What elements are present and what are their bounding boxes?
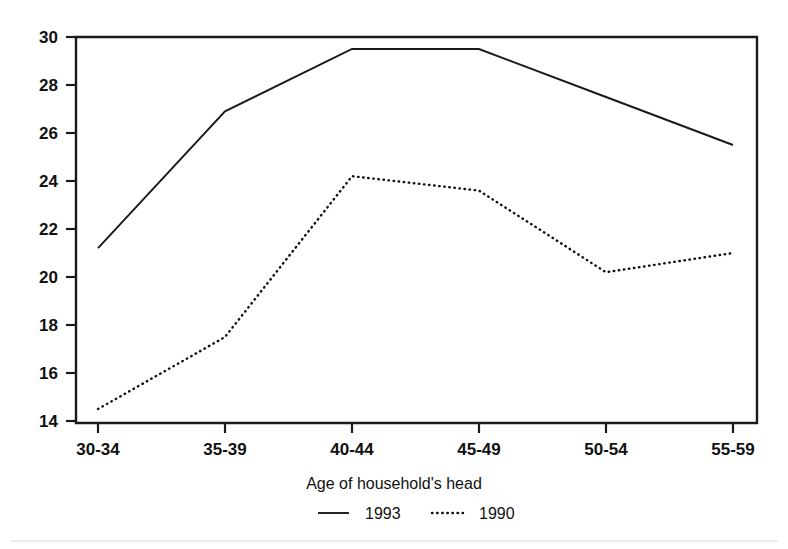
chart-background — [0, 0, 788, 549]
y-tick-label: 26 — [39, 124, 58, 143]
legend-label-1993: 1993 — [365, 505, 401, 522]
y-tick-label: 22 — [39, 220, 58, 239]
x-axis-title: Age of household's head — [306, 475, 482, 492]
chart-figure: 30 28 26 24 22 20 18 16 14 30-34 35-39 4… — [0, 0, 788, 549]
x-tick-label: 30-34 — [76, 440, 120, 459]
line-chart: 30 28 26 24 22 20 18 16 14 30-34 35-39 4… — [0, 0, 788, 549]
y-tick-label: 14 — [39, 412, 58, 431]
legend-label-1990: 1990 — [479, 505, 515, 522]
x-tick-label: 55-59 — [711, 440, 754, 459]
y-tick-label: 16 — [39, 364, 58, 383]
x-tick-label: 40-44 — [330, 440, 374, 459]
y-tick-label: 28 — [39, 76, 58, 95]
y-tick-label: 24 — [39, 172, 58, 191]
x-tick-label: 50-54 — [584, 440, 628, 459]
y-tick-label: 18 — [39, 316, 58, 335]
y-axis-tick-labels: 30 28 26 24 22 20 18 16 14 — [39, 28, 58, 431]
x-tick-label: 45-49 — [457, 440, 500, 459]
y-tick-label: 30 — [39, 28, 58, 47]
y-tick-label: 20 — [39, 268, 58, 287]
x-tick-label: 35-39 — [203, 440, 246, 459]
